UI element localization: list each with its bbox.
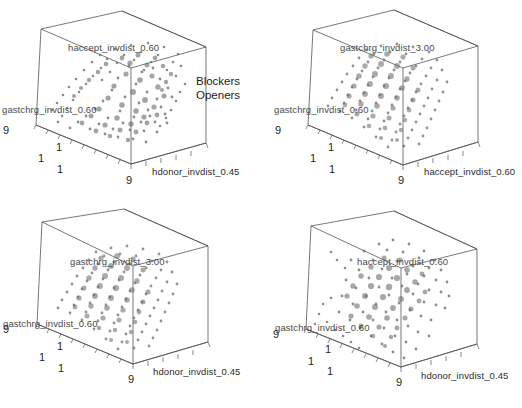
tick-y-low-top-right: 1 [310,152,316,164]
axis-label-x-bottom-left: hdonor_invdist_0.45 [153,366,240,377]
axis-label-x-top-right: haccept_invdist_0.60 [424,166,515,177]
scatter-panel-bottom-right: haccept_invdist_0.60 gastchrg_invdist_0.… [261,204,522,408]
figure-grid: haccept_invdist_0.60 gastchrg_invdist_0.… [0,0,522,408]
point-cloud [327,43,449,149]
tick-y-high-top-right: 9 [275,124,281,136]
tick-x-low-bottom-right: 1 [327,365,333,377]
legend-entry-openers: Openers [196,88,260,102]
axis-label-y-bottom-right: gastchrg_invdist_0.60 [275,322,370,333]
tick-x-high-bottom-left: 9 [128,373,134,385]
tick-x-low-bottom-left: 1 [58,362,64,374]
legend-entry-blockers: Blockers [196,74,260,88]
axis-label-x-bottom-right: hdonor_invdist_0.45 [421,370,508,381]
tick-x-high-bottom-right: 9 [396,376,402,388]
scatter-panel-top-right: gastchrg_invdist_3.00 gastchrg_invdist_0… [261,0,522,204]
axis-label-x-top-left: hdonor_invdist_0.45 [152,166,239,177]
tick-x-low-top-left: 1 [57,163,63,175]
tick-y-low-bottom-right: 1 [308,355,314,367]
tick-depth-low-bottom-right: 1 [325,343,331,355]
tick-y-high-bottom-right: 9 [273,328,279,340]
axis-label-y-bottom-left: gastchrg_invdist_0.60 [3,318,98,329]
tick-x-high-top-right: 9 [398,174,404,186]
cube-wireframe [306,211,477,367]
tick-depth-low-top-left: 1 [56,141,62,153]
axis-label-z-bottom-left: gastchrg_invdist_3.00 [70,256,165,267]
tick-x-high-top-left: 9 [126,174,132,186]
scatter-panel-top-left: haccept_invdist_0.60 gastchrg_invdist_0.… [0,0,261,204]
axis-label-y-top-left: gastchrg_invdist_0.60 [2,104,97,115]
axis-label-z-top-right: gastchrg_invdist_3.00 [340,42,435,53]
tick-y-high-top-left: 9 [3,124,9,136]
scatter-panel-bottom-left: gastchrg_invdist_3.00 gastchrg_invdist_0… [0,204,261,408]
point-cloud [51,42,187,144]
tick-depth-low-top-right: 1 [328,141,334,153]
axis-label-z-top-left: haccept_invdist_0.60 [68,42,159,53]
tick-y-low-bottom-left: 1 [39,351,45,363]
tick-x-low-top-right: 1 [329,163,335,175]
legend: Blockers Openers [196,74,260,102]
axis-label-y-top-right: gastchrg_invdist_0.60 [274,104,369,115]
axis-label-z-bottom-right: haccept_invdist_0.60 [357,256,448,267]
tick-depth-low-bottom-left: 1 [57,340,63,352]
tick-y-high-bottom-left: 9 [3,323,9,335]
tick-y-low-top-left: 1 [38,152,44,164]
